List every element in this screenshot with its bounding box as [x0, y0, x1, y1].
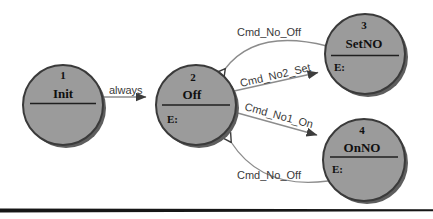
transition-off-to-onno: Cmd_No1_On [234, 100, 317, 135]
state-setno: 3 SetNO E: [325, 14, 408, 97]
transition-off-to-setno: Cmd_No2_Set [234, 61, 318, 91]
state-name: OnNO [344, 140, 381, 155]
state-name: Off [183, 87, 202, 102]
state-onno: 4 OnNO E: [323, 119, 408, 204]
state-number: 4 [359, 124, 365, 136]
state-number: 1 [60, 69, 66, 81]
transition-onno-to-off: Cmd_No_Off [231, 142, 328, 182]
state-name: SetNO [346, 36, 383, 51]
transition-label-always: always [109, 84, 143, 96]
transition-label-cmd-no1-on: Cmd_No1_On [243, 100, 314, 130]
transition-setno-to-off: Cmd_No_Off [225, 26, 327, 69]
state-number: 2 [190, 71, 196, 83]
bottom-rule-line [0, 209, 433, 213]
figure-canvas: always Cmd_No_Off Cmd_No2_Set Cmd_No1_On… [0, 0, 433, 219]
state-diagram: always Cmd_No_Off Cmd_No2_Set Cmd_No1_On… [0, 0, 433, 219]
transition-label-cmd-no2-set: Cmd_No2_Set [239, 61, 312, 89]
state-entry-label: E: [334, 61, 345, 73]
state-off: 2 Off E: [156, 65, 239, 148]
transition-label-cmd-no-off-bottom: Cmd_No_Off [237, 169, 302, 181]
transition-curve [225, 41, 327, 69]
state-entry-label: E: [332, 163, 343, 175]
state-init: 1 Init [23, 65, 106, 148]
state-name: Init [53, 86, 74, 101]
transition-init-to-off: always [103, 84, 146, 97]
transition-label-cmd-no-off-top: Cmd_No_Off [237, 26, 302, 38]
state-number: 3 [361, 19, 367, 31]
state-entry-label: E: [167, 113, 178, 125]
